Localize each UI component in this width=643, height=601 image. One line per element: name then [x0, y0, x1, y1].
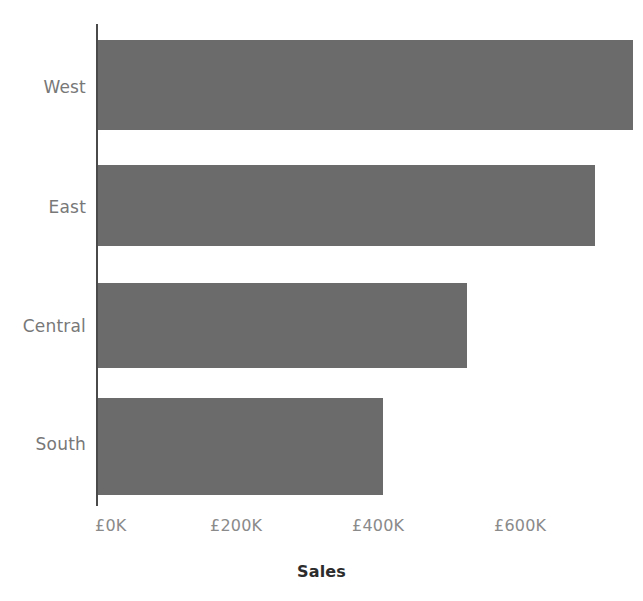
x-tick-text: £600K	[494, 516, 546, 535]
bar-row[interactable]	[98, 283, 467, 368]
bar-west[interactable]	[98, 40, 633, 130]
x-tick-text: £200K	[210, 516, 262, 535]
bar-row[interactable]	[98, 398, 383, 495]
x-tick-label-2: £400K	[352, 516, 404, 535]
bar-east[interactable]	[98, 165, 595, 246]
x-tick-text: £0K	[95, 516, 126, 535]
category-label-west: West	[0, 77, 86, 97]
category-label-text: East	[49, 197, 86, 217]
x-axis-title: Sales	[0, 562, 643, 581]
bar-row[interactable]	[98, 40, 633, 130]
category-label-central: Central	[0, 316, 86, 336]
x-tick-label-1: £200K	[210, 516, 262, 535]
plot-area: West East Central South £0K £200K £400K	[0, 0, 643, 601]
category-label-text: Central	[23, 316, 86, 336]
x-tick-label-0: £0K	[95, 516, 126, 535]
category-label-east: East	[0, 197, 86, 217]
bar-south[interactable]	[98, 398, 383, 495]
category-label-text: West	[43, 77, 86, 97]
bar-chart: West East Central South £0K £200K £400K	[0, 0, 643, 601]
bar-row[interactable]	[98, 165, 595, 246]
category-label-text: South	[36, 434, 86, 454]
bar-central[interactable]	[98, 283, 467, 368]
category-label-south: South	[0, 434, 86, 454]
x-axis-title-text: Sales	[297, 562, 346, 581]
x-tick-text: £400K	[352, 516, 404, 535]
x-tick-label-3: £600K	[494, 516, 546, 535]
